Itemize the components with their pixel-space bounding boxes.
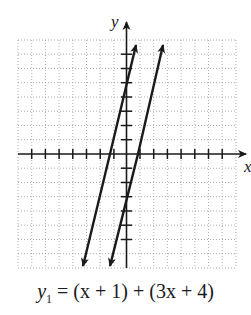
caption-rhs: = (x + 1) + (3x + 4) (52, 280, 214, 302)
equation-caption: y1 = (x + 1) + (3x + 4) (0, 280, 251, 307)
plotted-lines (83, 45, 163, 266)
y-axis-label: y (109, 12, 119, 31)
graph: y x (0, 0, 251, 280)
line-right-lower (110, 154, 138, 266)
x-axis-label: x (243, 157, 251, 176)
line-left-lower (83, 154, 110, 266)
line-right (138, 45, 163, 154)
caption-lhs-var: y (37, 280, 46, 302)
